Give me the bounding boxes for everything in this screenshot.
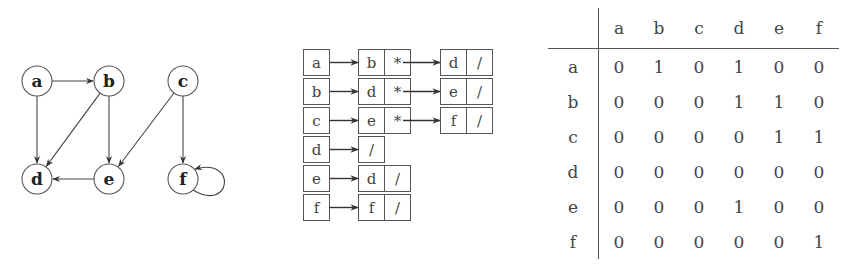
matrix-row-a: a010100 [548,49,839,85]
matrix-cell: 0 [679,119,719,154]
matrix-cell: 0 [599,154,640,189]
matrix-cell: 1 [719,84,759,119]
list-node-value-d: d [358,78,385,105]
matrix-cell: 0 [599,119,640,154]
list-node-value-d: d [358,165,385,192]
matrix-cell: 0 [799,154,839,189]
list-head-a: a [303,49,330,76]
matrix-cell: 0 [599,84,640,119]
list-head-f: f [303,194,330,221]
null-pointer: / [384,194,411,221]
matrix-cell: 1 [719,49,759,85]
matrix-cell: 0 [679,49,719,85]
next-pointer: * [384,78,411,105]
matrix-row-d: d000000 [548,154,839,189]
node-label: e [104,169,115,189]
edge-b-d [46,93,100,166]
matrix-cell: 0 [679,224,719,259]
matrix-cell: 0 [679,189,719,224]
matrix-cell: 0 [599,224,640,259]
directed-graph: abcdef [0,0,260,265]
list-head-d: d [303,136,330,163]
list-node-value-e: e [358,107,385,134]
node-label: b [103,71,115,91]
matrix-cell: 0 [799,84,839,119]
matrix-col-d: d [719,8,759,49]
matrix-row-label: d [548,154,599,189]
graph-node-e: e [94,164,124,194]
matrix-cell: 1 [639,49,679,85]
matrix-cell: 0 [799,189,839,224]
null-pointer: / [358,136,385,163]
matrix-row-label: c [548,119,599,154]
matrix-cell: 1 [799,224,839,259]
graph-node-b: b [94,66,124,96]
matrix-header-row: abcdef [548,8,839,49]
matrix-cell: 1 [719,189,759,224]
matrix-cell: 0 [759,154,799,189]
matrix-cell: 0 [759,224,799,259]
graph-nodes: abcdef [22,66,198,194]
null-pointer: / [466,78,493,105]
matrix-col-f: f [799,8,839,49]
next-pointer: * [384,49,411,76]
null-pointer: / [466,49,493,76]
graph-node-c: c [168,66,198,96]
list-head-c: c [303,107,330,134]
matrix-col-c: c [679,8,719,49]
node-label: c [178,71,188,91]
matrix-row-e: e000100 [548,189,839,224]
graph-node-f: f [168,164,198,194]
matrix-cell: 0 [799,49,839,85]
matrix-cell: 0 [679,84,719,119]
matrix-cell: 0 [759,49,799,85]
matrix-row-label: e [548,189,599,224]
list-node-value-d: d [440,49,467,76]
matrix-cell: 0 [719,119,759,154]
matrix-row-label: b [548,84,599,119]
node-label: a [31,71,42,91]
list-node-value-b: b [358,49,385,76]
matrix-col-e: e [759,8,799,49]
matrix-cell: 0 [639,224,679,259]
adjacency-list: ab*d/bd*e/ce*f/d/ed/ff/ [290,0,530,265]
list-node-value-f: f [440,107,467,134]
matrix-cell: 0 [759,189,799,224]
matrix-cell: 0 [679,154,719,189]
matrix-cell: 0 [719,154,759,189]
graph-node-a: a [22,66,52,96]
node-label: d [31,169,43,189]
matrix-cell: 0 [719,224,759,259]
matrix-row-f: f000001 [548,224,839,259]
matrix-cell: 0 [599,189,640,224]
list-head-e: e [303,165,330,192]
next-pointer: * [384,107,411,134]
matrix-cell: 0 [639,189,679,224]
matrix-row-c: c000011 [548,119,839,154]
matrix-row-label: a [548,49,599,85]
null-pointer: / [466,107,493,134]
graph-node-d: d [22,164,52,194]
matrix-cell: 0 [599,49,640,85]
matrix-cell: 0 [639,154,679,189]
adjacency-matrix: abcdef a010100b000110c000011d000000e0001… [548,8,839,259]
matrix-corner [548,8,599,49]
list-node-value-f: f [358,194,385,221]
matrix-cell: 0 [639,84,679,119]
matrix-cell: 1 [759,119,799,154]
matrix-col-b: b [639,8,679,49]
null-pointer: / [384,165,411,192]
matrix-cell: 1 [759,84,799,119]
matrix-col-a: a [599,8,640,49]
list-head-b: b [303,78,330,105]
edge-c-e [119,93,174,166]
graph-canvas: abcdef [0,0,260,265]
matrix-row-label: f [548,224,599,259]
matrix-cell: 1 [799,119,839,154]
matrix-row-b: b000110 [548,84,839,119]
list-node-value-e: e [440,78,467,105]
matrix-cell: 0 [639,119,679,154]
